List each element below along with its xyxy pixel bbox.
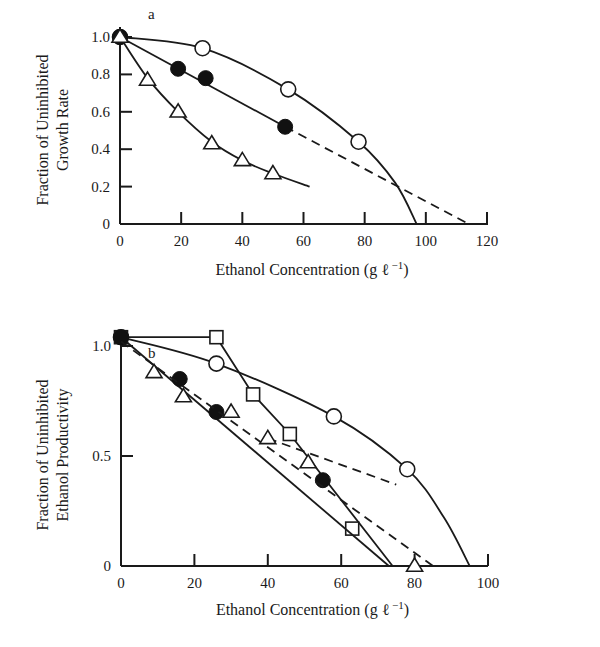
- x-tick-label: 100: [477, 575, 500, 591]
- open-circle-marker: [195, 41, 210, 56]
- open-circle-marker: [351, 134, 366, 149]
- x-tick-label: 100: [415, 233, 438, 249]
- panel-letter: b: [148, 345, 156, 361]
- dashed-fit-line: [268, 438, 396, 484]
- y-tick-label: 1.0: [91, 29, 110, 45]
- chart-panel-b: 02040608010000.51.0bEthanol Concentratio…: [34, 330, 499, 619]
- square-marker: [283, 428, 296, 441]
- y-tick-label: 0.2: [91, 179, 110, 195]
- triangle-marker: [223, 404, 239, 417]
- triangle-marker: [260, 430, 276, 443]
- x-tick-label: 40: [260, 575, 275, 591]
- triangle-marker: [234, 152, 250, 165]
- x-axis-title: Ethanol Concentration (g ℓ −1): [216, 599, 409, 619]
- x-tick-label: 40: [235, 233, 250, 249]
- figure: 02040608010012000.20.40.60.81.0aEthanol …: [0, 0, 600, 647]
- chart-panel-a: 02040608010012000.20.40.60.81.0aEthanol …: [34, 6, 498, 279]
- series-triangles: [112, 29, 310, 187]
- x-tick-label: 80: [407, 575, 422, 591]
- fit-line: [120, 37, 417, 224]
- y-tick-label: 0.8: [91, 66, 110, 82]
- y-tick-label: 0: [103, 216, 111, 232]
- open-circle-marker: [209, 356, 224, 371]
- y-tick-label: 0.6: [91, 104, 110, 120]
- x-tick-label: 20: [174, 233, 189, 249]
- y-tick-label: 0.5: [92, 448, 111, 464]
- filled-circle-marker: [315, 473, 330, 488]
- y-tick-label: 1.0: [92, 338, 111, 354]
- fit-line: [120, 37, 310, 187]
- x-tick-label: 120: [476, 233, 499, 249]
- y-axis-title: Fraction of UninhibitedGrowth Rate: [34, 54, 71, 205]
- panel-letter: a: [148, 6, 155, 22]
- y-tick-label: 0.4: [91, 141, 110, 157]
- series-filled-circles: [113, 30, 469, 225]
- square-marker: [346, 522, 359, 535]
- fit-line: [121, 337, 470, 566]
- square-marker: [210, 331, 223, 344]
- y-tick-label: 0: [104, 558, 112, 574]
- y-axis-title: Fraction of UninhibitedEthanol Productiv…: [34, 379, 72, 530]
- x-tick-label: 20: [187, 575, 202, 591]
- filled-circle-marker: [198, 71, 213, 86]
- open-circle-marker: [400, 462, 415, 477]
- axes: 02040608010012000.20.40.60.81.0: [91, 27, 498, 249]
- x-tick-label: 0: [117, 575, 125, 591]
- series-open-circles: [114, 330, 470, 566]
- filled-circle-marker: [171, 61, 186, 76]
- x-tick-label: 60: [296, 233, 311, 249]
- dashed-fit-line: [285, 127, 469, 224]
- series-squares: [115, 331, 393, 566]
- x-tick-label: 80: [357, 233, 372, 249]
- open-circle-marker: [281, 82, 296, 97]
- triangle-marker: [407, 558, 423, 571]
- x-axis-title: Ethanol Concentration (g ℓ −1): [215, 259, 408, 279]
- triangle-marker: [300, 455, 316, 468]
- open-circle-marker: [326, 409, 341, 424]
- dashed-fit-line: [121, 342, 433, 566]
- triangle-marker: [140, 72, 156, 85]
- x-tick-label: 0: [116, 233, 124, 249]
- filled-circle-marker: [278, 119, 293, 134]
- x-tick-label: 60: [334, 575, 349, 591]
- square-marker: [247, 388, 260, 401]
